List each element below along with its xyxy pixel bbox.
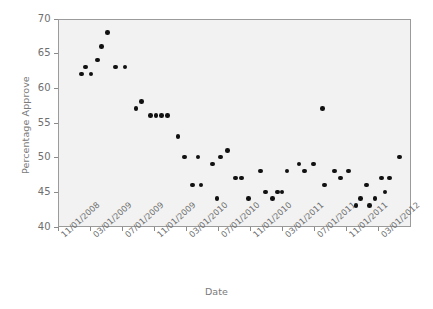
y-tick-label: 70 <box>31 13 51 24</box>
x-tick-mark <box>282 227 283 231</box>
data-point <box>270 196 275 201</box>
data-point <box>165 113 170 118</box>
y-tick-mark <box>54 53 58 54</box>
data-point <box>311 162 316 167</box>
data-point <box>322 183 327 188</box>
x-tick-mark <box>186 227 187 231</box>
y-tick-label: 50 <box>31 151 51 162</box>
data-point <box>148 113 153 118</box>
data-point <box>258 169 263 174</box>
x-tick-mark <box>90 227 91 231</box>
data-point <box>176 134 181 139</box>
data-point <box>275 190 280 195</box>
data-point <box>367 203 372 208</box>
data-point <box>332 169 337 174</box>
y-tick-mark <box>54 123 58 124</box>
data-point <box>105 30 110 35</box>
y-axis-title: Percentage Approve <box>20 76 31 174</box>
data-point <box>233 176 238 181</box>
y-tick-label: 65 <box>31 47 51 58</box>
data-point <box>113 65 118 70</box>
y-tick-mark <box>54 192 58 193</box>
x-tick-mark <box>218 227 219 231</box>
data-point <box>320 106 325 111</box>
data-point <box>79 72 84 77</box>
x-axis-title: Date <box>0 286 433 297</box>
data-point <box>364 183 369 188</box>
x-tick-mark <box>154 227 155 231</box>
scatter-chart-figure: Percentage Approve Date 40455055606570 1… <box>0 0 433 309</box>
data-point <box>218 155 223 160</box>
x-tick-mark <box>122 227 123 231</box>
x-tick-mark <box>314 227 315 231</box>
data-point <box>225 148 230 153</box>
data-point <box>190 183 195 188</box>
data-point <box>387 176 392 181</box>
x-tick-mark <box>346 227 347 231</box>
data-point <box>383 190 388 195</box>
data-point <box>263 190 268 195</box>
y-tick-label: 40 <box>31 221 51 232</box>
plot-area <box>58 19 411 227</box>
data-point <box>159 113 164 118</box>
data-point <box>246 196 251 201</box>
data-point <box>397 155 402 160</box>
y-tick-label: 55 <box>31 117 51 128</box>
y-tick-mark <box>54 88 58 89</box>
data-point <box>182 155 187 160</box>
y-tick-label: 60 <box>31 82 51 93</box>
y-tick-label: 45 <box>31 186 51 197</box>
data-point <box>354 203 359 208</box>
data-point <box>139 99 144 104</box>
data-point <box>210 162 215 167</box>
data-point <box>379 176 384 181</box>
y-tick-mark <box>54 19 58 20</box>
y-tick-mark <box>54 157 58 158</box>
data-point <box>239 176 244 181</box>
data-point <box>99 44 104 49</box>
x-tick-mark <box>58 227 59 231</box>
x-tick-mark <box>250 227 251 231</box>
